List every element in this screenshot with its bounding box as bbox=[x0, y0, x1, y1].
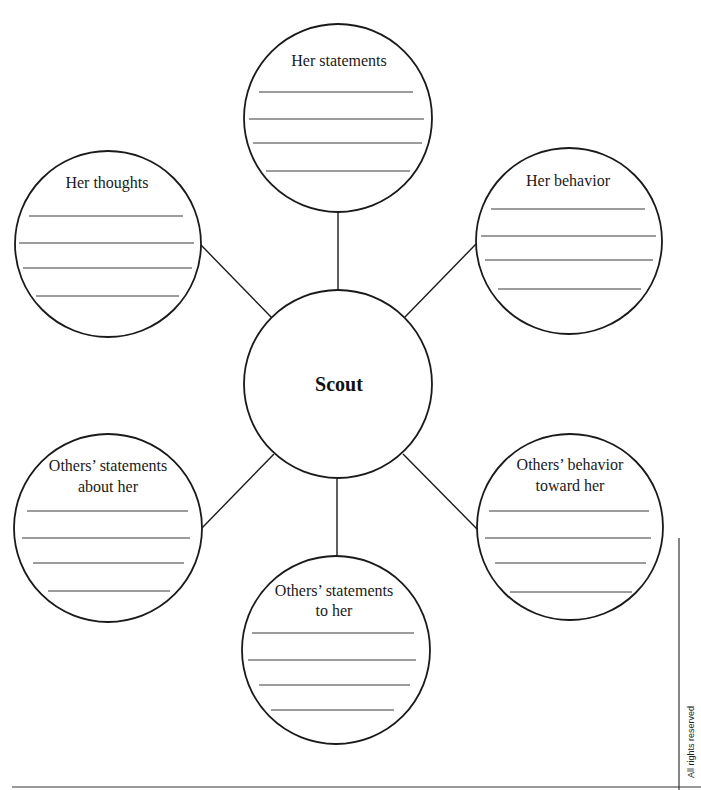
node-title-line-1: Others’ statements bbox=[49, 457, 167, 474]
node-title-line-2: to her bbox=[316, 602, 354, 619]
node-title: Her statements bbox=[291, 52, 387, 69]
character-web-diagram: Scout Her statements Her thoughts Her be… bbox=[0, 0, 701, 790]
connector-upper-right bbox=[405, 244, 476, 317]
node-her-thoughts: Her thoughts bbox=[15, 151, 201, 337]
connector-lower-left bbox=[201, 454, 274, 529]
rights-notice: All rights reserved bbox=[686, 706, 696, 778]
node-her-statements: Her statements bbox=[244, 24, 432, 212]
node-others-statements-about-her: Others’ statements about her bbox=[14, 434, 202, 622]
node-others-statements-to-her: Others’ statements to her bbox=[242, 556, 430, 744]
node-title-line-1: Others’ statements bbox=[275, 582, 393, 599]
center-label: Scout bbox=[315, 373, 363, 395]
connector-upper-left bbox=[201, 245, 272, 318]
node-her-behavior: Her behavior bbox=[476, 148, 662, 334]
node-others-behavior-toward-her: Others’ behavior toward her bbox=[477, 434, 663, 620]
node-title: Her thoughts bbox=[65, 174, 148, 192]
node-title-line-2: toward her bbox=[536, 477, 606, 494]
node-title: Her behavior bbox=[526, 172, 611, 189]
center-node: Scout bbox=[244, 290, 432, 478]
node-title-line-2: about her bbox=[78, 478, 139, 495]
connector-lower-right bbox=[403, 454, 478, 530]
node-title-line-1: Others’ behavior bbox=[517, 456, 624, 473]
